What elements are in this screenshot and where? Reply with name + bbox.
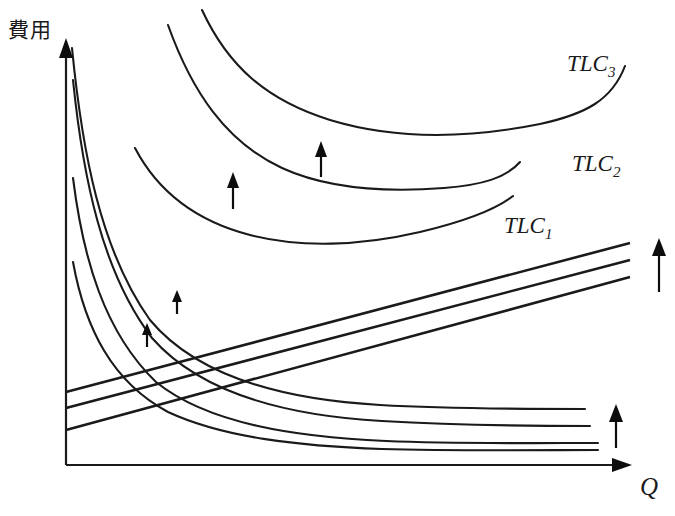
quantity-axis xyxy=(66,458,632,472)
cost-curve-figure: 費用 Q TLC3 TLC2 TLC1 xyxy=(0,0,675,516)
tlc1-label-text: TLC xyxy=(504,213,545,238)
tlc2-label-subscript: 2 xyxy=(613,164,621,180)
tlc1-label-subscript: 1 xyxy=(545,226,553,242)
shift-arrow-upper-right xyxy=(315,141,327,177)
shift-arrow-lower-inner xyxy=(172,290,182,314)
tlc3-label: TLC3 xyxy=(567,52,615,80)
tlc1-curve xyxy=(135,148,513,244)
quantity-axis-label: Q xyxy=(640,474,658,499)
cost-axis-label: 費用 xyxy=(8,20,52,41)
tlc2-label: TLC2 xyxy=(572,152,620,180)
tlc2-label-text: TLC xyxy=(572,151,613,176)
rising-cost-line-1 xyxy=(66,243,630,392)
tlc1-label: TLC1 xyxy=(504,214,552,242)
shift-arrow-right-lines xyxy=(652,238,666,292)
quantity-axis-arrowhead xyxy=(612,458,632,472)
tlc3-curve xyxy=(202,10,625,135)
rising-cost-line-3 xyxy=(66,277,630,430)
tlc2-curve xyxy=(168,25,520,190)
tlc3-label-text: TLC xyxy=(567,51,608,76)
shift-arrow-right-declining xyxy=(609,404,623,448)
declining-cost-curve-2 xyxy=(73,80,590,426)
shift-arrow-upper-left xyxy=(227,172,239,209)
cost-axis xyxy=(59,38,73,465)
cost-axis-arrowhead xyxy=(59,38,73,58)
tlc3-label-subscript: 3 xyxy=(608,64,616,80)
